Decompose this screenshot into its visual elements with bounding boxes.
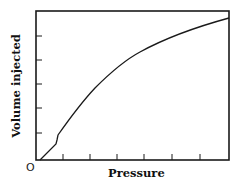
plot-frame xyxy=(36,11,229,160)
data-curve xyxy=(40,18,229,160)
y-axis-ticks xyxy=(36,36,42,133)
x-axis-ticks xyxy=(63,154,200,160)
chart-plot xyxy=(0,0,240,187)
x-axis-label: Pressure xyxy=(108,166,165,180)
origin-label: O xyxy=(26,161,35,174)
y-axis-label-text: Volume injected xyxy=(9,34,23,138)
